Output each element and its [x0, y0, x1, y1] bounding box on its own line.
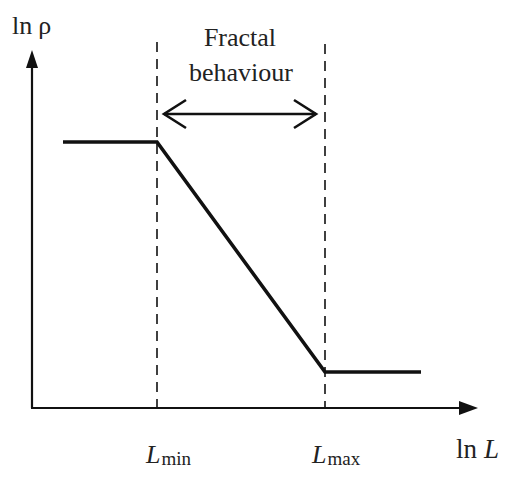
y-axis-arrowhead-icon: [26, 50, 38, 68]
data-curve: [63, 142, 421, 372]
annotation-line1: Fractal: [204, 23, 276, 52]
lmin-label: Lmin: [145, 440, 192, 469]
lmax-label: Lmax: [311, 440, 361, 469]
annotation-line2: behaviour: [189, 58, 293, 87]
diagram-svg: lnρ Fractal behaviour Lmin Lmax lnL: [0, 0, 511, 478]
x-axis-label: lnL: [456, 434, 499, 464]
fractal-range-arrow: [164, 100, 316, 128]
y-axis-label: lnρ: [12, 11, 51, 40]
fractal-diagram: lnρ Fractal behaviour Lmin Lmax lnL: [0, 0, 511, 478]
y-axis: [26, 50, 38, 408]
x-axis: [31, 401, 478, 415]
x-axis-arrowhead-icon: [459, 401, 478, 415]
